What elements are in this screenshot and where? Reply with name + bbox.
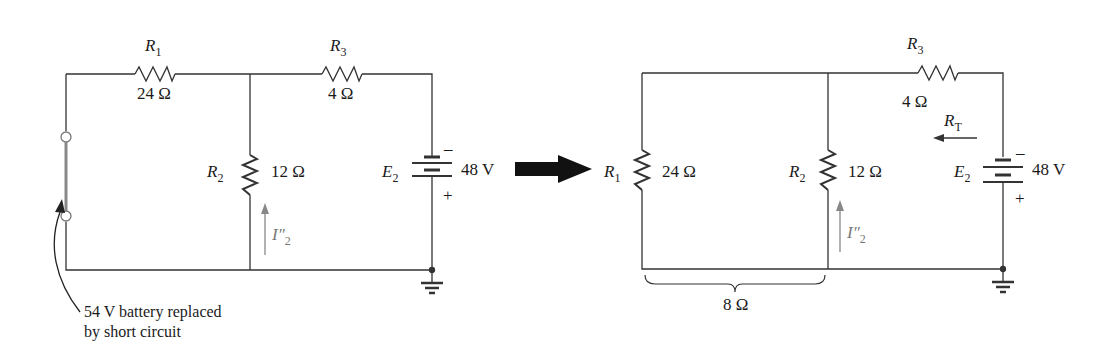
left-r2-label: R2 — [207, 163, 223, 180]
left-r1-label: R1 — [145, 37, 161, 54]
left-r3-value: 4 Ω — [328, 85, 353, 102]
left-r1-value: 24 Ω — [137, 85, 171, 102]
left-r1-resistor — [135, 67, 175, 81]
left-e2-plus: + — [443, 187, 453, 204]
left-circuit-wires — [66, 74, 432, 270]
right-e2-plus: + — [1015, 190, 1025, 207]
left-ground-icon — [421, 268, 443, 294]
annotation-line1: 54 V battery replaced — [84, 302, 222, 322]
right-r2-resistor — [821, 150, 835, 190]
right-current-label: I″2 — [847, 224, 866, 241]
right-r2-value: 12 Ω — [848, 163, 882, 180]
left-e2-minus: – — [444, 140, 453, 157]
right-r3-label: R3 — [907, 35, 923, 52]
rt-arrow — [933, 134, 977, 142]
parallel-brace — [645, 275, 825, 292]
left-current-label: I″2 — [272, 226, 291, 243]
rt-label: RT — [944, 112, 962, 129]
left-r2-resistor — [243, 155, 257, 195]
right-r1-label: R1 — [604, 163, 620, 180]
left-r3-label: R3 — [330, 37, 346, 54]
right-r3-value: 4 Ω — [902, 93, 927, 110]
left-r3-resistor — [322, 67, 362, 81]
circuit-wiring — [0, 0, 1114, 354]
right-e2-value: 48 V — [1032, 161, 1065, 178]
left-e2-label: E2 — [382, 163, 398, 180]
right-e2-battery — [983, 160, 1023, 182]
right-r3-resistor — [918, 66, 958, 80]
right-r1-resistor — [635, 150, 649, 190]
right-e2-minus: – — [1016, 144, 1025, 161]
circuit-diagram: R1 24 Ω R3 4 Ω R2 12 Ω I″2 E2 48 V – + 5… — [0, 0, 1114, 354]
transform-arrow — [515, 155, 592, 183]
left-e2-battery — [412, 155, 452, 185]
parallel-equiv-value: 8 Ω — [723, 296, 748, 313]
left-r2-value: 12 Ω — [271, 163, 305, 180]
right-r1-value: 24 Ω — [662, 163, 696, 180]
left-e2-value: 48 V — [461, 161, 494, 178]
right-current-arrow — [836, 200, 844, 252]
annotation-line2: by short circuit — [84, 322, 181, 342]
right-r2-label: R2 — [789, 163, 805, 180]
left-current-arrow — [261, 203, 269, 255]
right-ground-icon — [992, 267, 1014, 293]
right-e2-label: E2 — [954, 163, 970, 180]
